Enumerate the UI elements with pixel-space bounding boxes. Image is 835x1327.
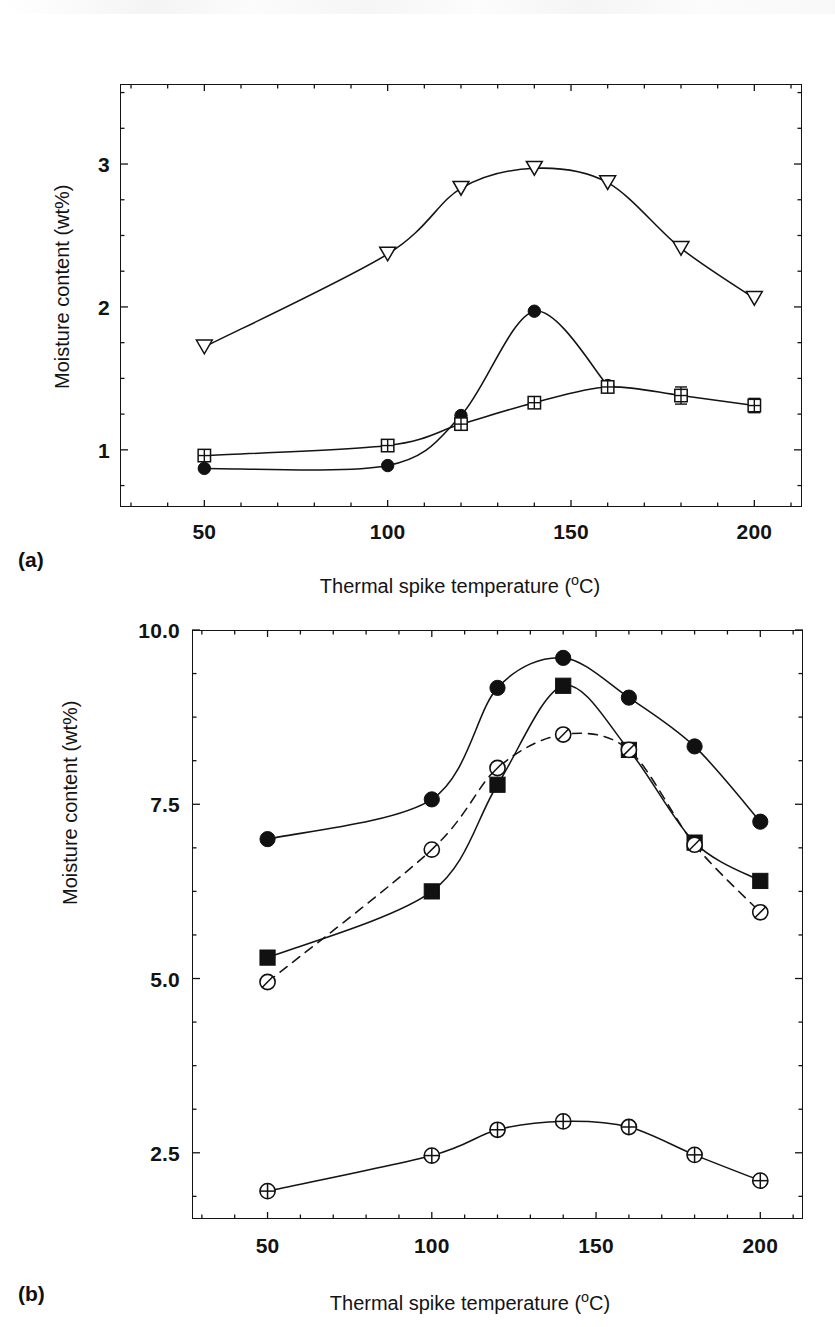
x-tick-label: 100 <box>414 1235 450 1256</box>
plot-canvas-a <box>0 0 835 600</box>
y-tick-label: 2.5 <box>118 1142 180 1163</box>
series-crossed-square-open <box>198 381 760 462</box>
plot-canvas-b <box>0 600 835 1327</box>
panel-label-b: (b) <box>18 1283 45 1304</box>
panel-a: 50100150200123 Moisture content (wt%) Th… <box>0 0 835 600</box>
series-filled-square <box>260 678 768 965</box>
x-tick-label: 100 <box>370 521 406 542</box>
y-tick-label: 10.0 <box>118 620 180 641</box>
x-tick-label: 150 <box>578 1235 614 1256</box>
x-tick-label: 200 <box>737 521 773 542</box>
series-open-triangle-down <box>196 161 762 353</box>
y-tick-label: 5.0 <box>118 968 180 989</box>
x-tick-label: 200 <box>742 1235 778 1256</box>
series-filled-circle <box>260 650 768 846</box>
y-tick-label: 3 <box>48 154 110 175</box>
figure-root: 50100150200123 Moisture content (wt%) Th… <box>0 0 835 1327</box>
x-tick-label: 50 <box>256 1235 280 1256</box>
x-axis-title-b: Thermal spike temperature (oC) <box>330 1290 610 1313</box>
series-plus-circle-open <box>260 1114 768 1199</box>
y-tick-label: 1 <box>48 439 110 460</box>
y-axis-title-a: Moisture content (wt%) <box>52 184 72 389</box>
series-slashed-circle-open <box>260 727 768 990</box>
panel-b: 501001502002.55.07.510.0 Moisture conten… <box>0 600 835 1327</box>
y-tick-label: 7.5 <box>118 794 180 815</box>
x-axis-title-a: Thermal spike temperature (oC) <box>320 573 600 596</box>
series-filled-circle <box>198 305 614 475</box>
panel-label-a: (a) <box>18 549 44 570</box>
x-tick-label: 50 <box>192 521 216 542</box>
y-axis-title-b: Moisture content (wt%) <box>60 700 80 905</box>
x-tick-label: 150 <box>553 521 589 542</box>
